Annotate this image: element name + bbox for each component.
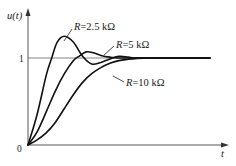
annotation-r-10k-text: =10 kΩ [132,77,164,88]
leader-r-10k [113,76,124,82]
curve-r-5k [28,52,210,145]
y-axis-label: u(t) [7,10,23,22]
step-response-chart: u(t) t 0 1 R=2.5 kΩ R=5 kΩ R=10 kΩ [0,0,236,166]
annotation-r-2-5k: R=2.5 kΩ [73,21,115,32]
annotation-r-2-5k-text: =2.5 kΩ [80,21,115,32]
x-axis-arrow-icon [221,143,229,148]
y-tick-1-label: 1 [19,54,24,64]
origin-label: 0 [17,144,22,154]
annotation-r-5k-text: =5 kΩ [122,39,149,50]
leader-r-5k [104,46,114,55]
curve-r-10k [28,58,210,145]
annotation-r-5k: R=5 kΩ [115,39,149,50]
x-axis-label: t [221,148,225,159]
y-axis-arrow-icon [26,8,31,16]
annotation-r-10k: R=10 kΩ [125,77,165,88]
